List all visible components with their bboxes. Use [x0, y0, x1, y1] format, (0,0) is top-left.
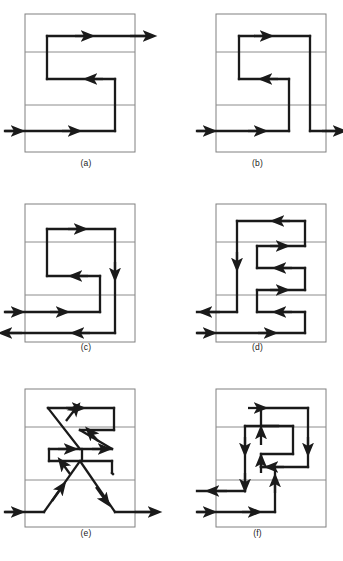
- panel-d: (d): [172, 190, 343, 375]
- panel-caption-f: (f): [172, 528, 343, 538]
- flow-path-d: [197, 221, 305, 333]
- panel-a: (a): [0, 0, 172, 190]
- panel-caption-d: (d): [172, 342, 343, 352]
- panel-caption-e: (e): [0, 528, 172, 538]
- flow-path-b: [197, 36, 340, 131]
- shell-outline-c: [25, 204, 135, 342]
- flow-arrows-a: [5, 36, 150, 131]
- panel-f: (f): [172, 375, 343, 561]
- panel-e: (e): [0, 375, 172, 561]
- figure-grid: (a): [0, 0, 343, 561]
- panel-b: (b): [172, 0, 343, 190]
- flow-path-c: [5, 229, 115, 333]
- baffle-lines-c: [25, 242, 135, 295]
- flow-arrows-f: [197, 408, 308, 512]
- shell-outline-d: [216, 204, 326, 342]
- panel-caption-c: (c): [0, 342, 172, 352]
- flow-arrows-b: [197, 36, 340, 131]
- panel-caption-b: (b): [172, 158, 343, 168]
- panel-c: (c): [0, 190, 172, 375]
- flow-path-e: [5, 408, 155, 512]
- flow-arrows-c: [5, 229, 115, 333]
- shell-outline-f: [216, 389, 326, 527]
- panel-caption-a: (a): [0, 158, 172, 168]
- shell-outline-e: [25, 389, 135, 527]
- flow-path-a: [5, 36, 150, 131]
- flow-path-f: [197, 408, 308, 512]
- baffle-lines-e: [25, 427, 135, 480]
- flow-arrows-d: [197, 221, 292, 333]
